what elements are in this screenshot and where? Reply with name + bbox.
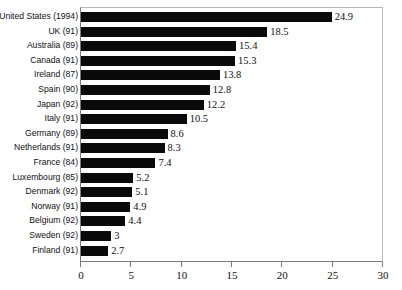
bar-wrapper: 12.8 bbox=[81, 85, 210, 95]
bar-category-label: Belgium (92) bbox=[0, 215, 78, 226]
bar-category-label: Sweden (92) bbox=[0, 230, 78, 241]
bar bbox=[81, 100, 204, 110]
bar bbox=[81, 202, 130, 212]
bar-row: Norway (91)4.9 bbox=[0, 201, 402, 216]
bar-wrapper: 10.5 bbox=[81, 114, 187, 124]
bar-wrapper: 4.4 bbox=[81, 216, 125, 226]
bar bbox=[81, 85, 210, 95]
bar-category-label: Finland (91) bbox=[0, 245, 78, 256]
bar bbox=[81, 216, 125, 226]
bar bbox=[81, 173, 133, 183]
bar-category-label: Ireland (87) bbox=[0, 69, 78, 80]
bar-row: Australia (89)15.4 bbox=[0, 40, 402, 55]
bar-row: United States (1994)24.9 bbox=[0, 11, 402, 26]
bar-category-label: France (84) bbox=[0, 157, 78, 168]
bar-value-label: 7.4 bbox=[158, 157, 171, 169]
bar-row: Spain (90)12.8 bbox=[0, 84, 402, 99]
bar-row: Sweden (92)3 bbox=[0, 230, 402, 245]
bar-value-label: 12.2 bbox=[207, 99, 225, 111]
x-axis-tick-label: 5 bbox=[129, 268, 135, 282]
bar-wrapper: 24.9 bbox=[81, 12, 332, 22]
bar-value-label: 5.2 bbox=[136, 172, 149, 184]
bar-category-label: United States (1994) bbox=[0, 11, 78, 22]
bar-category-label: Canada (91) bbox=[0, 55, 78, 66]
bar-category-label: UK (91) bbox=[0, 26, 78, 37]
bar-value-label: 15.4 bbox=[239, 40, 257, 52]
bar-value-label: 5.1 bbox=[135, 186, 148, 198]
bar-value-label: 4.4 bbox=[128, 215, 141, 227]
bar-wrapper: 2.7 bbox=[81, 246, 108, 256]
bar-row: Italy (91)10.5 bbox=[0, 113, 402, 128]
bar bbox=[81, 246, 108, 256]
bar bbox=[81, 41, 236, 51]
x-axis-tick bbox=[80, 262, 81, 267]
bar-row: Canada (91)15.3 bbox=[0, 55, 402, 70]
bar-value-label: 3 bbox=[114, 230, 119, 242]
bar bbox=[81, 187, 132, 197]
bar-row: Finland (91)2.7 bbox=[0, 245, 402, 260]
bar bbox=[81, 114, 187, 124]
bar-wrapper: 3 bbox=[81, 231, 111, 241]
x-axis-tick bbox=[181, 262, 182, 267]
x-axis-tick bbox=[382, 262, 383, 267]
bar-category-label: Netherlands (91) bbox=[0, 142, 78, 153]
bar-row: France (84)7.4 bbox=[0, 157, 402, 172]
bar-category-label: Denmark (92) bbox=[0, 186, 78, 197]
bar-wrapper: 7.4 bbox=[81, 158, 155, 168]
bar-row: Netherlands (91)8.3 bbox=[0, 142, 402, 157]
bar-category-label: Italy (91) bbox=[0, 113, 78, 124]
bar-category-label: Japan (92) bbox=[0, 99, 78, 110]
bar-row: Denmark (92)5.1 bbox=[0, 186, 402, 201]
bar-value-label: 13.8 bbox=[223, 69, 241, 81]
x-axis-tick-label: 0 bbox=[78, 268, 84, 282]
bar-value-label: 10.5 bbox=[190, 113, 208, 125]
bar-wrapper: 12.2 bbox=[81, 100, 204, 110]
bar-rows: United States (1994)24.9UK (91)18.5Austr… bbox=[0, 11, 402, 259]
bar-category-label: Luxembourg (85) bbox=[0, 172, 78, 183]
bar-value-label: 12.8 bbox=[213, 84, 231, 96]
bar-chart: United States (1994)24.9UK (91)18.5Austr… bbox=[0, 0, 402, 290]
bar-wrapper: 15.4 bbox=[81, 41, 236, 51]
bar-row: Japan (92)12.2 bbox=[0, 99, 402, 114]
bar-wrapper: 5.1 bbox=[81, 187, 132, 197]
bar-row: UK (91)18.5 bbox=[0, 26, 402, 41]
bar-row: Ireland (87)13.8 bbox=[0, 69, 402, 84]
bar bbox=[81, 12, 332, 22]
bar bbox=[81, 70, 220, 80]
bar-category-label: Norway (91) bbox=[0, 201, 78, 212]
x-axis-tick-labels: 051015202530 bbox=[0, 268, 402, 284]
bar-wrapper: 13.8 bbox=[81, 70, 220, 80]
bar bbox=[81, 158, 155, 168]
bar-wrapper: 15.3 bbox=[81, 56, 235, 66]
x-axis-tick-label: 20 bbox=[277, 268, 288, 282]
bar bbox=[81, 143, 165, 153]
bar-value-label: 18.5 bbox=[270, 26, 288, 38]
bar bbox=[81, 56, 235, 66]
bar-wrapper: 4.9 bbox=[81, 202, 130, 212]
bar bbox=[81, 27, 267, 37]
bar-value-label: 4.9 bbox=[133, 201, 146, 213]
bar-category-label: Germany (89) bbox=[0, 128, 78, 139]
bar-wrapper: 5.2 bbox=[81, 173, 133, 183]
bar-value-label: 15.3 bbox=[238, 55, 256, 67]
x-axis-tick-label: 15 bbox=[227, 268, 238, 282]
x-axis-tick bbox=[130, 262, 131, 267]
bar-row: Germany (89)8.6 bbox=[0, 128, 402, 143]
bar bbox=[81, 231, 111, 241]
bar-value-label: 8.6 bbox=[171, 128, 184, 140]
bar bbox=[81, 129, 168, 139]
bar-wrapper: 18.5 bbox=[81, 27, 267, 37]
x-axis-tick bbox=[281, 262, 282, 267]
x-axis-tick bbox=[332, 262, 333, 267]
x-axis-tick-label: 30 bbox=[378, 268, 389, 282]
bar-value-label: 8.3 bbox=[168, 142, 181, 154]
bar-category-label: Australia (89) bbox=[0, 40, 78, 51]
bar-category-label: Spain (90) bbox=[0, 84, 78, 95]
bar-row: Luxembourg (85)5.2 bbox=[0, 172, 402, 187]
x-axis-tick-label: 25 bbox=[327, 268, 338, 282]
bar-value-label: 2.7 bbox=[111, 245, 124, 257]
x-axis-tick bbox=[231, 262, 232, 267]
bar-wrapper: 8.3 bbox=[81, 143, 165, 153]
x-axis-tick-label: 10 bbox=[176, 268, 187, 282]
bar-value-label: 24.9 bbox=[335, 11, 353, 23]
